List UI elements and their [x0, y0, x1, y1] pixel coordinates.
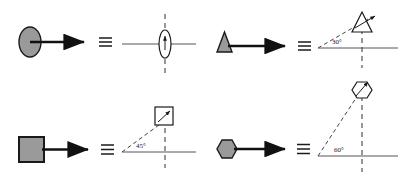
shape-square-filled [19, 137, 44, 162]
angle-label: 45° [136, 142, 146, 150]
angle-label: 60° [334, 146, 344, 154]
shape-hexagon-rotated [352, 82, 372, 98]
symmetry-equivalence-figure: 30° 45° [0, 0, 405, 177]
angle-label: 30° [332, 38, 342, 46]
